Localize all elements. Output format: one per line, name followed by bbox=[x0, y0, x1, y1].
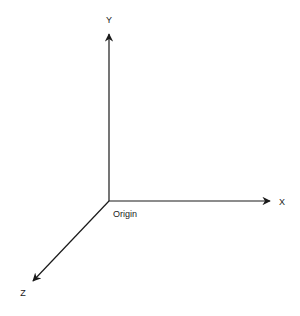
z-axis-line bbox=[33, 201, 109, 281]
origin-label: Origin bbox=[113, 209, 137, 219]
coordinate-axes-diagram: Y X Z Origin bbox=[0, 0, 300, 316]
y-axis-label: Y bbox=[106, 15, 112, 25]
z-axis-label: Z bbox=[20, 288, 26, 298]
x-axis-label: X bbox=[279, 197, 285, 207]
